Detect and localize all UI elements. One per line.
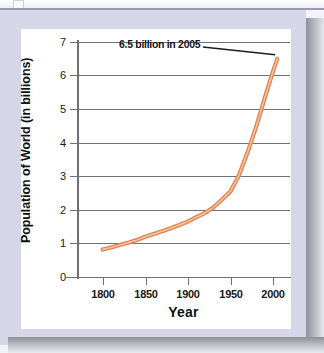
- gridline-5: [77, 109, 290, 110]
- figure-shadow-bottom: [8, 337, 324, 353]
- x-tick-label-2000: 2000: [253, 288, 293, 300]
- x-tick-label-1800: 1800: [83, 288, 123, 300]
- gridline-3: [77, 176, 290, 177]
- x-tick-2000: [273, 278, 274, 285]
- gridline-1: [77, 243, 290, 244]
- figure-container: 7 6 5 4 3 2 1 0 1800 1850 1900 1950 2000…: [0, 0, 324, 353]
- x-tick-1850: [146, 278, 147, 285]
- y-tick-label-3: 3: [50, 170, 66, 182]
- y-tick-6: [70, 75, 77, 76]
- y-tick-4: [70, 143, 77, 144]
- y-tick-label-1: 1: [50, 237, 66, 249]
- y-tick-label-6: 6: [50, 69, 66, 81]
- y-tick-2: [70, 210, 77, 211]
- y-axis-title: Population of World (in billions): [19, 63, 33, 243]
- x-tick-label-1950: 1950: [211, 288, 251, 300]
- y-tick-label-0: 0: [50, 271, 66, 283]
- gridline-6: [77, 75, 290, 76]
- x-tick-1900: [188, 278, 189, 285]
- y-tick-7: [70, 42, 77, 43]
- x-axis-title: Year: [77, 304, 290, 320]
- y-tick-label-4: 4: [50, 137, 66, 149]
- figure-shadow-right: [306, 18, 324, 353]
- x-tick-1950: [231, 278, 232, 285]
- gridline-2: [77, 210, 290, 211]
- y-tick-5: [70, 109, 77, 110]
- y-tick-label-7: 7: [50, 36, 66, 48]
- gridline-4: [77, 143, 290, 144]
- x-tick-1800: [103, 278, 104, 285]
- y-tick-label-2: 2: [50, 204, 66, 216]
- y-tick-1: [70, 243, 77, 244]
- x-axis-line: [66, 277, 291, 278]
- y-tick-3: [70, 176, 77, 177]
- y-tick-label-5: 5: [50, 103, 66, 115]
- x-tick-label-1900: 1900: [168, 288, 208, 300]
- plot-area: [77, 42, 290, 277]
- x-tick-label-1850: 1850: [126, 288, 166, 300]
- annotation-label: 6.5 billion in 2005: [119, 38, 200, 50]
- y-axis-line: [77, 40, 79, 279]
